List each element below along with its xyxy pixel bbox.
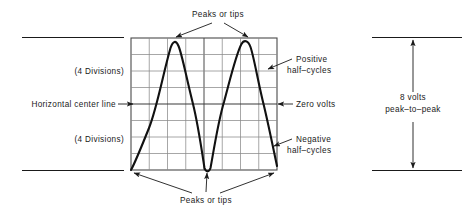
bottom-peak-arrow-right	[220, 173, 274, 193]
waveform-diagram: Peaks or tips Peaks or tips (4 Divisions…	[0, 0, 470, 211]
negative-halfcycles-label-line1: Negative	[296, 135, 331, 144]
positive-halfcycles-label-line1: Positive	[296, 55, 328, 64]
bottom-peak-arrow-middle	[206, 173, 207, 192]
bottom-peak-arrow-left	[134, 173, 192, 193]
ptp-label-line2: peak–to–peak	[385, 105, 441, 114]
zero-volts-label: Zero volts	[296, 100, 335, 109]
top-peaks-label: Peaks or tips	[192, 10, 244, 19]
diagram-canvas: Peaks or tips Peaks or tips (4 Divisions…	[0, 0, 470, 211]
positive-halfcycles-label-line2: half–cycles	[287, 66, 331, 75]
negative-halfcycles-label-line2: half–cycles	[287, 146, 331, 155]
ptp-label-line1: 8 volts	[400, 93, 426, 102]
divisions-lower-label: (4 Divisions)	[74, 135, 124, 144]
graticule	[131, 38, 277, 170]
top-peak-arrow-left	[176, 23, 212, 37]
bottom-peaks-label: Peaks or tips	[180, 196, 232, 205]
center-line-label: Horizontal center line	[31, 100, 116, 109]
divisions-upper-label: (4 Divisions)	[74, 67, 124, 76]
top-peak-arrow-right	[224, 23, 248, 37]
